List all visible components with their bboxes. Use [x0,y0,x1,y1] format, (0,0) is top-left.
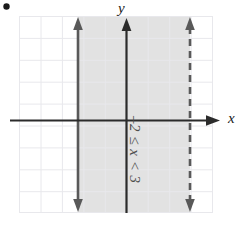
inequality-graph-figure: y x –2 ≤ x < 3 [0,0,247,231]
inequality-region-label: –2 ≤ x < 3 [123,116,143,210]
x-axis-label: x [228,111,235,126]
y-axis-label: y [118,1,125,16]
bullet-marker-icon [3,3,9,9]
